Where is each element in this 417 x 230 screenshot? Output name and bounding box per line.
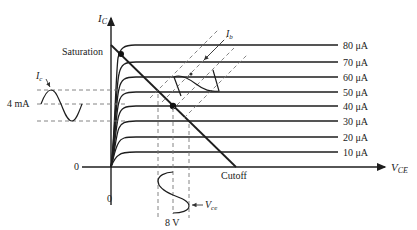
curve-label-80: 80 μA (343, 40, 369, 51)
ib-signal-label: Ib (225, 28, 233, 41)
saturation-point (118, 51, 124, 57)
curve-label-30: 30 μA (343, 116, 369, 127)
saturation-label: Saturation (62, 46, 103, 57)
curve-label-60: 60 μA (343, 72, 369, 83)
origin-x-tick: 0 (107, 193, 112, 204)
curve-label-40: 40 μA (343, 101, 369, 112)
cutoff-label: Cutoff (221, 170, 248, 181)
characteristic-curves (111, 45, 338, 167)
curve-labels: 80 μA 70 μA 60 μA 50 μA 40 μA 30 μA 20 μ… (343, 40, 369, 158)
x-axis-label: VCE (391, 161, 408, 175)
diagram-canvas: IC VCE 0 0 Saturation Cutoff Ic 4 mA Ib … (0, 0, 417, 230)
vce-value-label: 8 V (165, 217, 180, 228)
transistor-load-line-diagram: IC VCE 0 0 Saturation Cutoff Ic 4 mA Ib … (0, 0, 417, 230)
curve-label-70: 70 μA (343, 57, 369, 68)
curve-label-20: 20 μA (343, 132, 369, 143)
ib-arrow (204, 40, 224, 60)
vce-waveform (158, 172, 189, 213)
ib-projection-lines (150, 30, 248, 118)
ib-marker-dot (190, 73, 193, 76)
ic-arrow (46, 79, 50, 87)
y-axis-label: IC (97, 12, 108, 26)
origin-y-tick: 0 (74, 161, 79, 172)
ic-waveform (41, 90, 82, 121)
ic-value-label: 4 mA (7, 98, 30, 109)
curve-label-10: 10 μA (343, 147, 369, 158)
ic-signal-label: Ic (35, 70, 43, 83)
vce-signal-label: Vce (205, 199, 217, 212)
curve-label-50: 50 μA (343, 87, 369, 98)
